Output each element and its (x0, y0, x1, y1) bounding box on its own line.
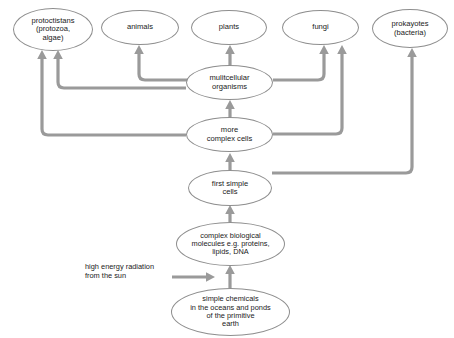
node-more-complex-cells: more complex cells (186, 117, 273, 152)
node-first-simple-cells: first simple cells (188, 170, 272, 206)
node-prokaryotes: prokayotes (bacteria) (372, 9, 448, 48)
arrow-molecules-to-first-cells (225, 205, 235, 222)
label-high-energy-radiation: high energy radiation from the sun (85, 262, 154, 281)
node-plants-label: plants (196, 23, 262, 32)
node-simple-chemicals-label: simple chemicals in the oceans and ponds… (176, 295, 285, 328)
evolution-flow-diagram: protoctistans (protozoa, algae) animals … (0, 0, 454, 338)
node-fungi: fungi (282, 10, 359, 45)
node-simple-chemicals: simple chemicals in the oceans and ponds… (171, 288, 290, 336)
arrow-complex-cells-to-fungi (273, 45, 347, 134)
node-more-complex-cells-label: more complex cells (191, 126, 268, 143)
arrow-multicellular-to-protoctistans (53, 50, 186, 88)
arrow-complex-cells-to-multicellular (225, 100, 235, 117)
arrow-multicellular-to-plants (225, 45, 235, 65)
node-protoctistans: protoctistans (protozoa, algae) (13, 8, 93, 51)
node-complex-biological-molecules-label: complex biological molecules e.g. protei… (181, 232, 280, 257)
node-animals-label: animals (106, 23, 174, 32)
node-multicellular-organisms: mulitcellular organisms (186, 65, 273, 100)
node-animals: animals (101, 10, 179, 45)
node-complex-biological-molecules: complex biological molecules e.g. protei… (176, 222, 285, 266)
arrow-multicellular-to-fungi (273, 45, 329, 80)
arrow-first-cells-to-prokaryotes (272, 48, 417, 173)
node-prokaryotes-label: prokayotes (bacteria) (377, 20, 443, 37)
arrow-multicellular-to-animals (134, 45, 190, 80)
node-fungi-label: fungi (287, 23, 354, 32)
node-first-simple-cells-label: first simple cells (193, 180, 267, 197)
node-multicellular-organisms-label: mulitcellular organisms (191, 74, 268, 91)
arrow-first-cells-to-complex-cells (225, 153, 235, 170)
arrow-chemicals-to-molecules (225, 265, 235, 288)
arrow-sun-to-chemicals (166, 272, 215, 282)
node-plants: plants (191, 10, 267, 45)
node-protoctistans-label: protoctistans (protozoa, algae) (18, 17, 88, 43)
